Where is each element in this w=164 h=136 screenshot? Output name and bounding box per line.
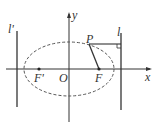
point-p-label: P (86, 33, 93, 45)
x-axis-label: x (145, 71, 150, 83)
left-directrix-label: l' (8, 23, 14, 35)
origin-label: O (59, 72, 68, 84)
left-focus-label: F' (34, 72, 44, 84)
diagram-graphics (0, 0, 164, 136)
y-axis-arrow-icon (67, 12, 71, 18)
ellipse-diagram: y x O F' F P l' l (0, 0, 164, 136)
right-focus-label: F (95, 72, 102, 84)
right-directrix-label: l (117, 26, 120, 38)
y-axis-label: y (72, 9, 77, 21)
